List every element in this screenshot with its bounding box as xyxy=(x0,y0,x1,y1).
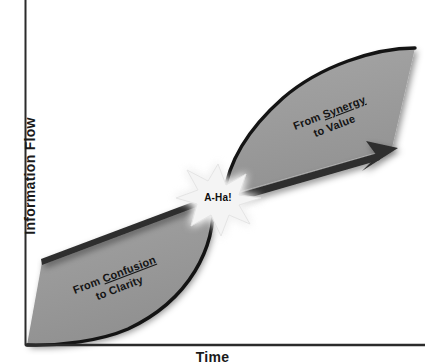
y-axis-label: Information Flow xyxy=(22,96,38,256)
aha-burst-label: A-Ha! xyxy=(188,192,248,203)
s-curve-diagram: Information Flow Time From Confusion to … xyxy=(0,0,425,364)
x-axis-label: Time xyxy=(0,349,425,364)
